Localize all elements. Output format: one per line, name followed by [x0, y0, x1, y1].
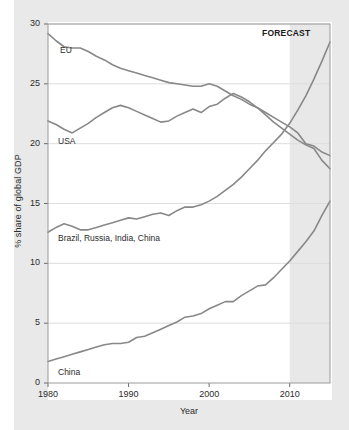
x-tick-label: 2000 [189, 389, 229, 399]
forecast-annotation: FORECAST [262, 28, 310, 38]
y-tick-label: 20 [16, 138, 40, 148]
y-tick-label: 10 [16, 257, 40, 267]
series-label-eu: EU [60, 45, 72, 55]
chart-figure: % share of global GDP Year 051015202530 … [0, 0, 349, 430]
series-label-usa: USA [58, 136, 75, 146]
x-axis-label: Year [48, 406, 330, 416]
x-tick-label: 1990 [109, 389, 149, 399]
series-label-china: China [58, 367, 80, 377]
y-tick-label: 0 [16, 377, 40, 387]
x-tick-label: 1980 [28, 389, 68, 399]
y-tick-label: 25 [16, 78, 40, 88]
y-tick-label: 5 [16, 317, 40, 327]
series-label-bric: Brazil, Russia, India, China [58, 233, 160, 243]
y-tick-label: 15 [16, 198, 40, 208]
line-chart-plot [0, 0, 349, 430]
y-tick-label: 30 [16, 18, 40, 28]
x-tick-label: 2010 [270, 389, 310, 399]
